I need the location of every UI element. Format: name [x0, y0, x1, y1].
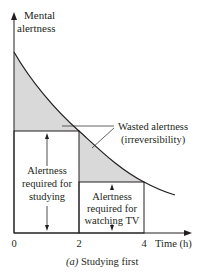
- tv-arrow-up-icon: [110, 184, 114, 190]
- tv-label-line2: required for: [87, 203, 137, 214]
- studying-arrow-up-icon: [45, 133, 49, 139]
- tv-label-line1: Alertness: [92, 191, 132, 202]
- x-axis-label: Time (h): [155, 238, 192, 250]
- caption: (a) Studying first: [66, 256, 138, 268]
- x-axis-arrow-icon: [184, 230, 192, 236]
- x-tick-4: 4: [141, 238, 147, 249]
- caption-text: Studying first: [78, 256, 138, 267]
- studying-label-line2: required for: [22, 178, 72, 189]
- wasted-label-line1: Wasted alertness: [118, 121, 188, 132]
- caption-prefix: (a): [66, 256, 79, 268]
- wasted-label-line2: (irreversibility): [121, 134, 186, 146]
- studying-label-line1: Alertness: [27, 165, 67, 176]
- y-axis-label-line1: Mental: [24, 9, 55, 21]
- studying-arrow-down-icon: [45, 225, 49, 231]
- tv-label-line3: watching TV: [85, 215, 140, 226]
- wasted-leader-2: [92, 128, 114, 148]
- y-axis-arrow-icon: [11, 12, 17, 20]
- y-axis-label-line2: alertness: [17, 22, 55, 34]
- wasted-region-studying: [14, 52, 79, 131]
- x-tick-0: 0: [11, 238, 16, 249]
- x-tick-2: 2: [76, 238, 81, 249]
- studying-label-line3: studying: [29, 191, 66, 202]
- alertness-diagram: Mental alertness Wasted alertness (irrev…: [0, 0, 205, 278]
